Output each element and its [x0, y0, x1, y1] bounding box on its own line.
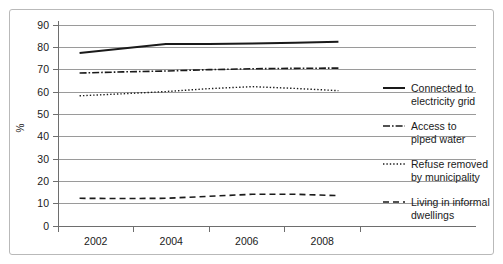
y-tick-label-0: 0: [43, 220, 49, 232]
legend: Connected toelectricity gridAccess topip…: [383, 82, 490, 221]
y-tick-label-50: 50: [37, 108, 49, 120]
y-tick-label-30: 30: [37, 153, 49, 165]
x-tick-label-2008: 2008: [311, 235, 335, 247]
chart-container: 0102030405060708090%2002200420062008Conn…: [0, 0, 503, 264]
legend-label-0-line2: electricity grid: [411, 95, 475, 107]
line-chart: 0102030405060708090%2002200420062008Conn…: [0, 0, 503, 264]
series-line-3: [80, 194, 339, 198]
legend-label-0-line1: Connected to: [411, 82, 474, 94]
x-tick-label-2006: 2006: [235, 235, 259, 247]
series-line-2: [80, 87, 339, 96]
y-tick-label-80: 80: [37, 41, 49, 53]
x-axis: 2002200420062008: [58, 226, 476, 247]
legend-label-3-line2: dwellings: [411, 209, 454, 221]
legend-label-2-line1: Refuse removed: [411, 158, 488, 170]
legend-label-1-line2: piped water: [411, 133, 466, 145]
legend-label-2-line2: by municipality: [411, 171, 481, 183]
series-line-1: [80, 68, 339, 73]
y-tick-label-20: 20: [37, 175, 49, 187]
x-tick-label-2004: 2004: [160, 235, 184, 247]
y-tick-label-70: 70: [37, 63, 49, 75]
y-tick-label-60: 60: [37, 86, 49, 98]
y-tick-label-40: 40: [37, 130, 49, 142]
series-group: [80, 42, 339, 199]
legend-label-3-line1: Living in informal: [411, 196, 490, 208]
y-tick-label-10: 10: [37, 197, 49, 209]
y-tick-label-90: 90: [37, 19, 49, 31]
y-axis-title: %: [15, 123, 26, 132]
legend-label-1-line1: Access to: [411, 120, 457, 132]
x-tick-label-2002: 2002: [84, 235, 108, 247]
